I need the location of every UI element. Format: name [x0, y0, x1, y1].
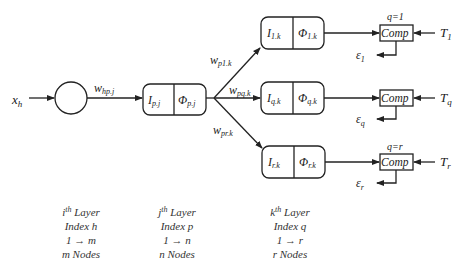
- input-label: xh: [11, 92, 23, 109]
- target-1: T1: [440, 25, 452, 42]
- output-node-r: Ir.k Φr.k: [262, 146, 325, 178]
- svg-text:jth Layer: jth Layer: [156, 205, 196, 218]
- hidden-node: Ip.j Φp.j: [143, 84, 206, 115]
- error-q: εq: [356, 112, 365, 128]
- svg-text:Comp: Comp: [381, 156, 409, 169]
- output-node-q: Iq.k Φq.k: [261, 82, 324, 114]
- branch-weight-r: wpr.k: [213, 123, 233, 138]
- svg-text:Comp: Comp: [381, 92, 409, 105]
- layer-caption-k: kth Layer Index q 1 → r r Nodes: [270, 205, 310, 260]
- svg-text:kth Layer: kth Layer: [270, 205, 310, 218]
- error-r: εr: [356, 176, 365, 192]
- layer-caption-i: ith Layer Index h 1 → m m Nodes: [62, 205, 101, 260]
- branch-weight-1: wp1.k: [210, 53, 232, 68]
- q-label-r: q=r: [387, 141, 403, 152]
- svg-text:1 → n: 1 → n: [163, 234, 191, 246]
- error-1: ε1: [356, 48, 365, 64]
- svg-text:m Nodes: m Nodes: [62, 248, 100, 260]
- svg-text:Index h: Index h: [64, 220, 98, 232]
- comparator-q: Comp Tq εq: [324, 90, 452, 128]
- input-neuron: [55, 82, 87, 114]
- comparator-1: Comp q=1 T1 ε1: [324, 11, 452, 64]
- q-label-1: q=1: [387, 11, 404, 22]
- svg-text:Index q: Index q: [273, 220, 307, 232]
- svg-text:1 → m: 1 → m: [66, 234, 96, 246]
- comparator-r: Comp q=r Tr εr: [325, 141, 451, 192]
- svg-text:n Nodes: n Nodes: [159, 248, 195, 260]
- branch-weight-q: wpq.k: [229, 83, 251, 98]
- svg-text:1 → r: 1 → r: [277, 234, 304, 246]
- neural-network-diagram: xh whp.j Ip.j Φp.j wp1.k wpq.k wpr.k I1.…: [0, 0, 463, 268]
- svg-text:r Nodes: r Nodes: [273, 248, 308, 260]
- target-r: Tr: [440, 154, 451, 171]
- output-node-1: I1.k Φ1.k: [261, 17, 324, 49]
- branch-arrow-r: [214, 98, 262, 148]
- svg-text:ith Layer: ith Layer: [62, 205, 100, 218]
- svg-text:Comp: Comp: [381, 27, 409, 40]
- layer-caption-j: jth Layer Index p 1 → n n Nodes: [156, 205, 196, 260]
- input-weight-label: whp.j: [94, 81, 115, 96]
- target-q: Tq: [440, 90, 452, 107]
- svg-text:Index p: Index p: [160, 220, 194, 232]
